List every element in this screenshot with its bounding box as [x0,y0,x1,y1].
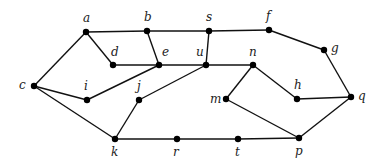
node-label-i: i [84,79,88,93]
edge-t-p [238,138,299,139]
node-q [348,94,354,100]
edge-b-e [147,31,159,65]
edge-a-d [86,32,113,65]
graph-diagram: absfgdeuncijmhqkrtp [0,0,382,165]
node-e [156,62,162,68]
edge-c-k [34,86,115,139]
node-label-r: r [173,145,180,159]
node-m [223,96,229,102]
node-label-k: k [111,145,118,159]
node-label-b: b [144,10,152,24]
node-label-a: a [83,11,90,25]
node-r [174,136,180,142]
node-i [84,97,90,103]
edge-k-j [115,100,139,139]
edge-g-q [324,50,351,97]
node-c [31,83,37,89]
node-a [83,29,89,35]
edge-f-g [269,30,324,50]
node-label-h: h [294,78,302,92]
node-k [112,136,118,142]
node-label-m: m [210,92,221,106]
node-label-f: f [265,9,273,23]
edge-a-c [34,32,86,86]
node-label-p: p [295,144,303,158]
edge-s-u [206,31,209,65]
node-p [296,135,302,141]
edge-a-b [86,31,147,32]
node-h [294,96,300,102]
node-s [206,28,212,34]
edge-m-p [226,99,299,138]
node-n [250,62,256,68]
node-label-c: c [19,78,26,92]
node-d [110,62,116,68]
node-label-j: j [134,79,141,93]
node-label-t: t [235,145,240,159]
edges-layer [34,30,351,139]
node-label-e: e [162,45,169,59]
node-u [203,62,209,68]
node-g [321,47,327,53]
edge-q-p [299,97,351,138]
node-f [266,27,272,33]
edge-h-q [297,97,351,99]
edge-n-h [253,65,297,99]
node-label-s: s [206,10,212,24]
node-label-q: q [358,89,366,103]
node-j [136,97,142,103]
edge-n-m [226,65,253,99]
edge-c-i [34,86,87,100]
node-label-d: d [111,45,119,59]
nodes-layer [31,27,354,142]
node-label-u: u [196,45,204,59]
node-b [144,28,150,34]
node-label-g: g [331,41,339,55]
node-t [235,136,241,142]
edge-s-f [209,30,269,31]
node-label-n: n [249,45,257,59]
